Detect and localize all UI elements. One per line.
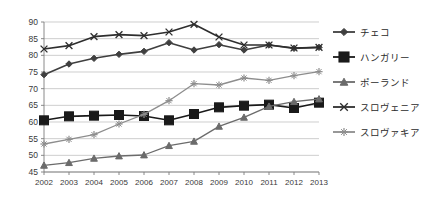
data-point-marker <box>240 101 249 110</box>
x-tick-label: 2010 <box>235 178 253 187</box>
y-tick-label: 70 <box>29 84 39 94</box>
series-layer <box>40 21 324 168</box>
data-point-marker <box>40 116 49 125</box>
data-point-marker <box>339 52 349 62</box>
x-tick-label: 2005 <box>110 178 128 187</box>
x-tick-label: 2002 <box>35 178 53 187</box>
data-point-marker <box>215 103 224 112</box>
data-point-marker <box>340 128 348 136</box>
x-tick-label: 2009 <box>210 178 228 187</box>
legend-label: ハンガリー <box>360 52 410 63</box>
legend-item-5[interactable]: スロヴァキア <box>333 127 420 138</box>
x-tick-label: 2013 <box>310 178 328 187</box>
x-tick-label: 2007 <box>160 178 178 187</box>
chart-canvas: 45505560657075808590 2002200320042005200… <box>0 0 433 205</box>
data-point-marker <box>315 68 322 75</box>
y-tick-label: 45 <box>29 167 39 177</box>
legend-label: ポーランド <box>360 77 410 88</box>
data-point-marker <box>165 116 174 125</box>
data-point-marker <box>215 81 222 88</box>
data-point-marker <box>241 114 248 120</box>
y-tick-label: 65 <box>29 100 39 110</box>
data-point-marker <box>116 51 122 57</box>
series-line <box>44 72 319 144</box>
legend-item-1[interactable]: チェコ <box>333 27 390 38</box>
legend-item-4[interactable]: スロヴェニア <box>333 102 420 113</box>
series-2 <box>40 98 324 125</box>
data-point-marker <box>166 39 172 45</box>
data-point-marker <box>165 97 172 104</box>
data-point-marker <box>216 41 222 47</box>
legend-label: チェコ <box>360 27 390 38</box>
y-tick-label: 80 <box>29 50 39 60</box>
line-chart-figure: 45505560657075808590 2002200320042005200… <box>0 0 433 205</box>
legend-label: スロヴァキア <box>360 127 420 138</box>
y-tick-label: 50 <box>29 150 39 160</box>
data-point-marker <box>190 80 197 87</box>
data-point-marker <box>290 72 297 79</box>
data-point-marker <box>65 112 74 121</box>
data-point-marker <box>90 111 99 120</box>
y-tick-label: 55 <box>29 134 39 144</box>
x-tick-label: 2008 <box>185 178 203 187</box>
series-line <box>44 43 319 75</box>
series-line <box>44 24 319 49</box>
legend-item-3[interactable]: ポーランド <box>333 77 410 88</box>
x-tick-label: 2004 <box>85 178 103 187</box>
series-5 <box>40 68 322 148</box>
data-point-marker <box>90 131 97 138</box>
legend-label: スロヴェニア <box>360 102 420 113</box>
series-4 <box>41 21 323 52</box>
x-tick-label: 2011 <box>260 178 278 187</box>
data-point-marker <box>40 140 47 147</box>
grid-layer <box>44 22 319 172</box>
data-point-marker <box>65 136 72 143</box>
y-tick-label: 60 <box>29 117 39 127</box>
y-tick-label: 85 <box>29 34 39 44</box>
y-tick-label: 75 <box>29 67 39 77</box>
data-point-marker <box>190 110 199 119</box>
data-point-marker <box>140 111 147 118</box>
data-point-marker <box>91 55 97 61</box>
x-tick-label: 2003 <box>60 178 78 187</box>
data-point-marker <box>340 28 347 35</box>
axis-layer <box>41 22 319 175</box>
data-point-marker <box>240 74 247 81</box>
y-tick-label: 90 <box>29 17 39 27</box>
data-point-marker <box>191 47 197 53</box>
x-tick-label: 2012 <box>285 178 303 187</box>
data-point-marker <box>66 61 72 67</box>
data-point-marker <box>115 111 124 120</box>
data-point-marker <box>115 120 122 127</box>
legend-item-2[interactable]: ハンガリー <box>333 52 410 63</box>
data-point-marker <box>265 77 272 84</box>
x-axis-tick-labels: 2002200320042005200620072008200920102011… <box>35 178 328 187</box>
data-point-marker <box>141 48 147 54</box>
chart-legend: チェコハンガリーポーランドスロヴェニアスロヴァキア <box>333 27 420 138</box>
y-axis-tick-labels: 45505560657075808590 <box>29 17 39 177</box>
x-tick-label: 2006 <box>135 178 153 187</box>
